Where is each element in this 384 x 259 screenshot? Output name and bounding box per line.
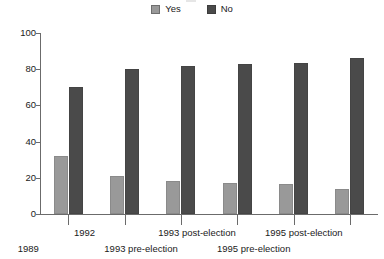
legend-swatch-no xyxy=(207,5,216,14)
chart-legend: Yes No xyxy=(0,4,384,14)
bar-yes-0 xyxy=(54,156,68,214)
bar-no-2 xyxy=(181,66,195,214)
bar-no-5 xyxy=(350,58,364,214)
bar-yes-2 xyxy=(166,181,180,214)
bar-yes-3 xyxy=(223,183,237,214)
bar-no-3 xyxy=(238,64,252,214)
x-axis-tick xyxy=(350,214,351,225)
legend-swatch-yes xyxy=(151,5,160,14)
legend-item-yes: Yes xyxy=(151,4,181,14)
x-axis-tick-label: 1995 post-election xyxy=(265,227,343,238)
x-axis-tick-labels: 198919921993 pre-election1993 post-elect… xyxy=(0,214,344,259)
bar-series-container xyxy=(40,33,378,214)
y-axis-tick xyxy=(36,142,40,143)
bar-yes-1 xyxy=(110,176,124,214)
clipped-title-artifact xyxy=(186,0,196,2)
y-axis-tick-label: 80 xyxy=(25,64,36,74)
y-axis-tick xyxy=(36,178,40,179)
y-axis-tick xyxy=(36,69,40,70)
bar-chart: Yes No 020406080100 198919921993 pre-ele… xyxy=(0,0,384,259)
x-axis-tick-label: 1995 pre-election xyxy=(217,243,290,254)
bar-yes-4 xyxy=(279,184,293,214)
x-axis-tick-label: 1993 post-election xyxy=(158,227,236,238)
x-axis-tick-label: 1989 xyxy=(18,243,39,254)
legend-item-no: No xyxy=(207,4,233,14)
y-axis-tick-label: 100 xyxy=(20,28,36,38)
bar-no-0 xyxy=(69,87,83,214)
y-axis-tick xyxy=(36,33,40,34)
x-axis-tick-label: 1993 pre-election xyxy=(104,243,177,254)
bar-yes-5 xyxy=(335,189,349,214)
y-axis-tick-labels: 020406080100 xyxy=(6,33,36,214)
x-axis-tick-label: 1992 xyxy=(74,227,95,238)
legend-label-yes: Yes xyxy=(165,4,181,14)
bar-no-1 xyxy=(125,69,139,214)
bar-no-4 xyxy=(294,63,308,214)
plot-area: 020406080100 xyxy=(40,33,378,214)
y-axis-tick xyxy=(36,105,40,106)
legend-label-no: No xyxy=(221,4,233,14)
y-axis-tick-label: 60 xyxy=(25,100,36,110)
y-axis-tick-label: 20 xyxy=(25,173,36,183)
y-axis-tick-label: 40 xyxy=(25,137,36,147)
